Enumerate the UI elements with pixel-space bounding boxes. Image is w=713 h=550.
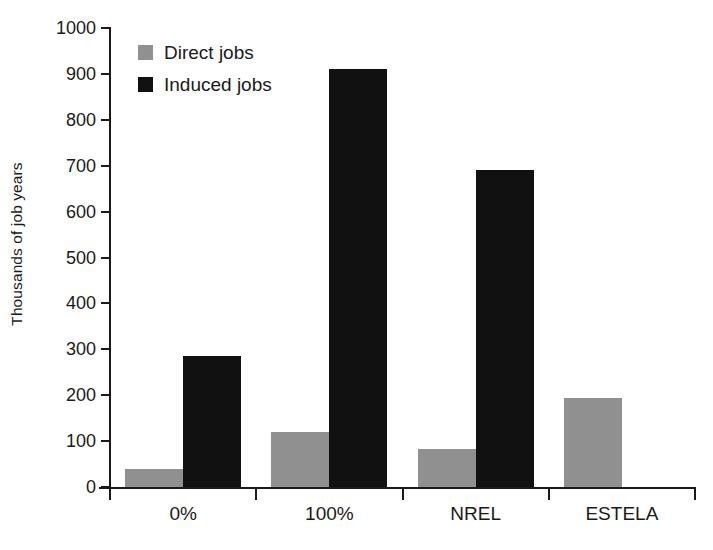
y-axis-tick-label-wrap: 300 (0, 349, 96, 350)
legend-swatch-icon (138, 45, 153, 60)
y-axis-tick-label-wrap: 0 (0, 487, 96, 488)
x-axis-tick (548, 489, 550, 500)
bar (271, 432, 329, 487)
legend-item: Induced jobs (138, 70, 272, 98)
y-axis-tick-label-wrap: 700 (0, 166, 96, 167)
y-axis-tick (101, 73, 110, 75)
y-axis-tick-label: 400 (10, 294, 96, 312)
x-axis-tick-label: ESTELA (552, 503, 692, 525)
legend-label: Induced jobs (164, 75, 272, 94)
bar (329, 69, 387, 487)
y-axis-tick (101, 302, 110, 304)
bar (476, 170, 534, 487)
x-axis-tick (402, 489, 404, 500)
y-axis-tick-label: 1000 (10, 19, 96, 37)
y-axis-tick-label-wrap: 100 (0, 441, 96, 442)
x-axis-tick-label: 0% (113, 503, 253, 525)
chart-legend: Direct jobsInduced jobs (138, 38, 272, 102)
y-axis-tick-label-wrap: 900 (0, 74, 96, 75)
y-axis-tick-label: 900 (10, 65, 96, 83)
y-axis-tick-label: 0 (10, 478, 96, 496)
y-axis-tick (101, 211, 110, 213)
y-axis-tick (101, 119, 110, 121)
y-axis-tick-label-wrap: 600 (0, 212, 96, 213)
x-axis-line (99, 487, 696, 489)
x-axis-tick (109, 489, 111, 500)
y-axis-tick-label: 300 (10, 340, 96, 358)
y-axis-tick (101, 394, 110, 396)
bar-chart: Thousands of job years 01002003004005006… (0, 0, 713, 550)
bar (183, 356, 241, 487)
bar (564, 398, 622, 488)
y-axis-tick-label-wrap: 200 (0, 395, 96, 396)
legend-label: Direct jobs (164, 43, 254, 62)
y-axis-tick-label: 800 (10, 111, 96, 129)
y-axis-tick-label-wrap: 500 (0, 258, 96, 259)
y-axis-tick-label-wrap: 1000 (0, 28, 96, 29)
y-axis-tick-label: 200 (10, 386, 96, 404)
y-axis-tick-label: 100 (10, 432, 96, 450)
bar (125, 469, 183, 487)
y-axis-tick (101, 440, 110, 442)
legend-item: Direct jobs (138, 38, 272, 66)
y-axis-tick (101, 27, 110, 29)
x-axis-tick-label: 100% (259, 503, 399, 525)
y-axis-tick-label: 600 (10, 203, 96, 221)
y-axis-tick (101, 165, 110, 167)
y-axis-tick (101, 486, 110, 488)
y-axis-tick (101, 257, 110, 259)
y-axis-tick (101, 348, 110, 350)
y-axis-tick-label-wrap: 800 (0, 120, 96, 121)
y-axis-tick-label: 700 (10, 157, 96, 175)
x-axis-tick-label: NREL (406, 503, 546, 525)
x-axis-tick (255, 489, 257, 500)
bar (418, 449, 476, 487)
legend-swatch-icon (138, 77, 153, 92)
y-axis-tick-label: 500 (10, 249, 96, 267)
y-axis-tick-label-wrap: 400 (0, 303, 96, 304)
x-axis-tick (694, 489, 696, 500)
